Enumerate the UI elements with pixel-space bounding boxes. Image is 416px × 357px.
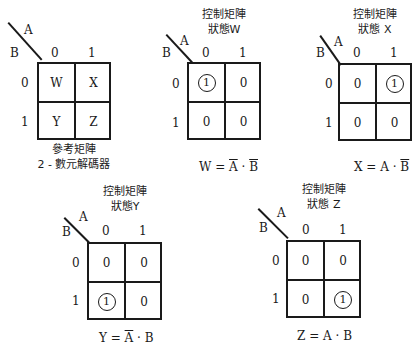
reference-caption: 參考矩陣 2 - 數元解碼器 [37, 142, 111, 172]
col-header-0: 0 [51, 47, 59, 59]
boolean-equation: X = A · B [354, 160, 409, 174]
kmap-grid: W X Y Z [37, 62, 111, 140]
title-line-2: 狀態W [187, 22, 261, 37]
col-var-label: A [180, 35, 189, 47]
row-var-label: B [162, 47, 171, 59]
cell-a0b1: 0 [189, 103, 224, 140]
title-line-2: 狀態 X [338, 22, 412, 37]
row-var-label: B [316, 47, 325, 59]
title-line-2: 狀態Y [88, 199, 162, 214]
cell-a1b0: 0 [226, 64, 261, 101]
col-header-1: 1 [139, 225, 147, 237]
cell-z: Z [76, 103, 111, 140]
title-line-1: 控制矩陣 [287, 182, 361, 197]
title-line-1: 控制矩陣 [88, 184, 162, 199]
cell-a1b0: 1 [377, 65, 412, 102]
cell-a0b0: 0 [288, 242, 323, 279]
title-line-1: 控制矩陣 [338, 7, 412, 22]
col-header-0: 0 [302, 224, 310, 236]
map-title: 控制矩陣 狀態 X [338, 7, 412, 37]
cell-a1b1: 0 [226, 103, 261, 140]
cell-a0b1: 0 [288, 281, 323, 318]
row-var-label: B [62, 226, 71, 238]
cell-a0b0: 1 [189, 64, 224, 101]
col-header-0: 0 [353, 47, 361, 59]
row-header-1: 1 [21, 116, 29, 128]
kmap-grid: 0 0 1 0 [87, 242, 162, 320]
circled-one: 1 [334, 291, 352, 309]
row-var-label: B [10, 47, 19, 59]
title-line-2: 狀態 Z [287, 197, 361, 212]
row-header-1: 1 [325, 117, 333, 129]
cell-a1b0: 0 [126, 244, 162, 281]
map-title: 控制矩陣 狀態W [187, 7, 261, 37]
kmap-grid: 1 0 0 0 [187, 62, 261, 140]
cell-w: W [39, 64, 74, 101]
col-header-1: 1 [390, 47, 398, 59]
row-header-0: 0 [21, 77, 29, 89]
row-header-0: 0 [172, 78, 180, 90]
circled-one: 1 [386, 75, 404, 93]
col-header-0: 0 [102, 225, 110, 237]
col-var-label: A [24, 24, 33, 36]
circled-one: 1 [198, 74, 216, 92]
cell-a1b1: 0 [126, 283, 162, 320]
boolean-equation: W = A · B [199, 160, 258, 174]
kmap-grid: 0 0 0 1 [286, 240, 361, 318]
map-title: 控制矩陣 狀態Y [88, 184, 162, 214]
col-var-label: A [79, 211, 88, 223]
caption-line-2: 2 - 數元解碼器 [37, 157, 111, 172]
row-header-1: 1 [72, 295, 80, 307]
cell-a0b1: 1 [89, 283, 124, 320]
cell-a1b0: 0 [325, 242, 361, 279]
cell-a0b0: 0 [340, 65, 375, 102]
row-header-1: 1 [172, 117, 180, 129]
row-header-0: 0 [72, 257, 80, 269]
col-header-1: 1 [339, 224, 347, 236]
cell-a0b0: 0 [89, 244, 124, 281]
boolean-equation: Y = A · B [99, 331, 154, 345]
col-header-1: 1 [88, 47, 96, 59]
cell-a0b1: 0 [340, 104, 375, 141]
col-var-label: A [277, 207, 286, 219]
cell-y: Y [39, 103, 74, 140]
cell-a1b1: 1 [325, 281, 361, 318]
col-header-0: 0 [202, 47, 210, 59]
row-var-label: B [259, 222, 268, 234]
boolean-equation: Z = A · B [297, 329, 352, 343]
row-header-0: 0 [325, 78, 333, 90]
circled-one: 1 [98, 293, 116, 311]
cell-a1b1: 0 [377, 104, 412, 141]
caption-line-1: 參考矩陣 [37, 142, 111, 157]
col-var-label: A [334, 36, 343, 48]
row-header-1: 1 [272, 293, 280, 305]
row-header-0: 0 [272, 255, 280, 267]
map-title: 控制矩陣 狀態 Z [287, 182, 361, 212]
col-header-1: 1 [239, 47, 247, 59]
cell-x: X [76, 64, 111, 101]
kmap-grid: 0 1 0 0 [338, 63, 412, 141]
title-line-1: 控制矩陣 [187, 7, 261, 22]
